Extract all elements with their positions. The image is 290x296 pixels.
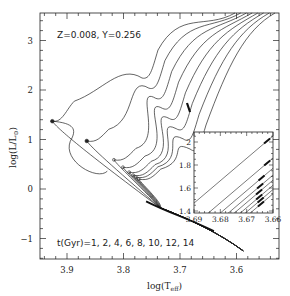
hr-diagram-chart: 3.93.83.73.6−10123 Z=0.008, Y=0.256 t(Gy… — [0, 0, 290, 296]
composition-annotation: Z=0.008, Y=0.256 — [57, 30, 141, 40]
svg-text:3.66: 3.66 — [265, 215, 282, 224]
inset-plot: 3.693.683.673.661.41.61.82 — [179, 132, 290, 224]
svg-text:0: 0 — [28, 184, 33, 194]
svg-text:3.6: 3.6 — [230, 265, 244, 275]
svg-text:3.7: 3.7 — [173, 265, 187, 275]
svg-text:3: 3 — [28, 36, 33, 46]
svg-text:−1: −1 — [20, 234, 33, 244]
svg-text:3.68: 3.68 — [212, 215, 229, 224]
svg-text:1.4: 1.4 — [179, 207, 191, 216]
svg-text:3.69: 3.69 — [186, 215, 203, 224]
y-axis-label: log(L/L⊙) — [8, 127, 19, 168]
x-axis-label: log(Teff) — [147, 281, 182, 292]
svg-text:3.67: 3.67 — [238, 215, 255, 224]
svg-text:1.6: 1.6 — [179, 184, 191, 193]
svg-text:3.9: 3.9 — [60, 265, 74, 275]
svg-text:1: 1 — [28, 135, 33, 145]
svg-text:2: 2 — [186, 138, 191, 147]
ages-annotation: t(Gyr)=1, 2, 4, 6, 8, 10, 12, 14 — [57, 238, 194, 248]
svg-text:3.8: 3.8 — [117, 265, 131, 275]
svg-text:1.8: 1.8 — [179, 161, 191, 170]
svg-text:2: 2 — [28, 85, 33, 95]
